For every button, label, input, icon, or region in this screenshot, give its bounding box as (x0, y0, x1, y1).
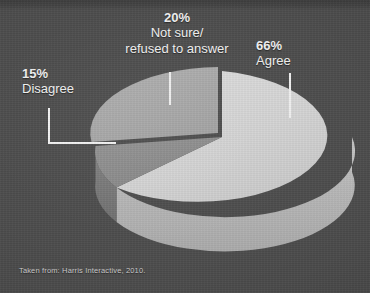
slice-label-disagree: 15% Disagree (22, 66, 122, 97)
slice-label-notsure: 20% Not sure/ refused to answer (112, 10, 242, 56)
slice-label-agree: 66% Agree (256, 38, 346, 69)
slice-label-disagree-text: Disagree (22, 81, 122, 96)
pie-chart-figure: 20% Not sure/ refused to answer 66% Agre… (0, 0, 370, 293)
slice-label-agree-percent: 66% (256, 38, 346, 53)
slice-label-notsure-percent: 20% (112, 10, 242, 25)
slice-label-disagree-percent: 15% (22, 66, 122, 81)
slice-label-notsure-line2: refused to answer (112, 41, 242, 56)
slice-label-agree-text: Agree (256, 53, 346, 68)
slice-label-notsure-line1: Not sure/ (112, 25, 242, 40)
source-caption: Taken from: Harris Interactive, 2010. (19, 266, 145, 275)
